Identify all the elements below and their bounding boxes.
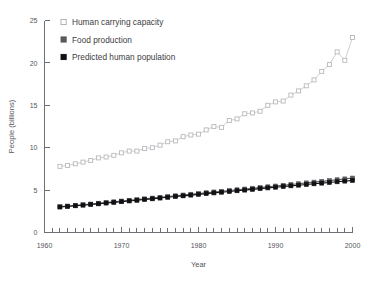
data-point [104,155,108,159]
open-square-marker [61,19,66,24]
data-point [96,156,100,160]
legend-item: Predicted human population [61,52,176,62]
data-point [73,204,77,208]
data-point [66,204,70,208]
x-tick-label: 1990 [268,242,284,249]
y-axis: 0510152025 [30,17,50,236]
data-point [73,162,77,166]
y-tick-label: 0 [34,229,38,236]
data-point [243,112,247,116]
data-point [335,180,339,184]
data-point [173,195,177,199]
data-point [212,125,216,129]
data-point [220,190,224,194]
data-point [181,135,185,139]
data-point [343,58,347,62]
data-point [289,93,293,97]
data-point [289,184,293,188]
chart-container: 0510152025 19601970198019902000 Year Peo… [0,0,379,284]
data-point [143,147,147,151]
data-point [351,35,355,39]
data-point [227,119,231,123]
x-tick-label: 1970 [114,242,130,249]
data-point [120,200,124,204]
data-point [304,84,308,88]
data-point [135,149,139,153]
data-point [197,192,201,196]
data-point [81,203,85,207]
legend-label: Human carrying capacity [72,17,164,27]
y-tick-label: 20 [30,60,38,67]
data-point [297,89,301,93]
data-point [166,140,170,144]
data-point [173,139,177,143]
data-point [220,125,224,129]
data-point [281,185,285,189]
data-point [89,158,93,162]
data-point [258,187,262,191]
y-tick-label: 10 [30,144,38,151]
data-point [158,196,162,200]
x-tick-label: 2000 [345,242,361,249]
y-tick-label: 15 [30,102,38,109]
x-tick-label: 1960 [37,242,53,249]
data-point [58,205,62,209]
y-tick-label: 25 [30,17,38,24]
data-point [150,146,154,150]
chart-legend: Human carrying capacityFood productionPr… [61,17,176,62]
data-point [258,109,262,113]
data-point [312,182,316,186]
data-point [66,164,70,168]
legend-item: Food production [61,35,132,45]
data-point [112,153,116,157]
data-point [143,198,147,202]
data-point [335,50,339,54]
data-point [204,128,208,132]
data-point [58,164,62,168]
data-point [204,192,208,196]
data-point [343,179,347,183]
data-point [189,193,193,197]
data-point [266,103,270,107]
data-point [266,186,270,190]
data-point [235,117,239,121]
data-point [96,202,100,206]
data-point [250,111,254,115]
data-point [81,160,85,164]
data-point [104,201,108,205]
data-point [304,183,308,187]
x-axis-minor-ticks [45,227,353,233]
data-point [243,188,247,192]
data-point [320,69,324,73]
data-point [181,194,185,198]
black-square-marker [61,54,66,59]
data-point [166,195,170,199]
data-point [281,99,285,103]
y-tick-label: 5 [34,187,38,194]
x-axis-title: Year [191,260,207,269]
data-point [189,133,193,137]
data-point [127,149,131,153]
data-point [212,191,216,195]
data-point [274,100,278,104]
data-point [297,183,301,187]
data-point [351,178,355,182]
data-point [320,181,324,185]
gray-square-marker [61,37,66,42]
data-point [158,143,162,147]
data-point [274,185,278,189]
data-point [250,187,254,191]
data-point [135,198,139,202]
data-point [227,189,231,193]
x-axis: 19601970198019902000 [37,227,361,249]
data-point [120,151,124,155]
data-point [327,63,331,67]
x-tick-label: 1980 [191,242,207,249]
legend-item: Human carrying capacity [61,17,164,27]
data-point [127,199,131,203]
data-point [112,200,116,204]
data-point [312,78,316,82]
x-axis-tick-labels: 19601970198019902000 [37,242,361,249]
legend-label: Predicted human population [72,52,176,62]
y-axis-tick-labels: 0510152025 [30,17,38,236]
